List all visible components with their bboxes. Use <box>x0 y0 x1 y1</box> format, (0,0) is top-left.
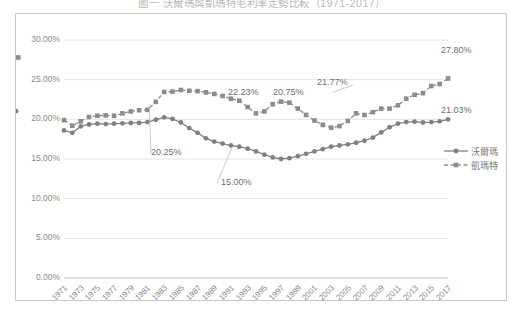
data-point <box>103 122 108 127</box>
data-point <box>154 100 159 105</box>
data-point <box>137 108 142 113</box>
data-point <box>345 142 350 147</box>
data-point <box>404 96 409 101</box>
data-point <box>287 100 292 105</box>
data-point <box>412 92 417 97</box>
data-point <box>354 140 359 145</box>
data-point <box>320 147 325 152</box>
data-point <box>421 120 426 125</box>
data-point <box>112 113 117 118</box>
data-point <box>153 117 158 122</box>
data-point <box>137 121 142 126</box>
y-axis-tick: 5.00% <box>18 232 60 242</box>
data-point <box>370 135 375 140</box>
data-label: 20.25% <box>151 147 182 157</box>
data-point <box>346 119 351 124</box>
data-point <box>304 151 309 156</box>
data-label: 15.00% <box>221 177 252 187</box>
y-axis-tick: 10.00% <box>18 193 60 203</box>
data-point <box>254 111 259 116</box>
data-point <box>78 124 83 129</box>
data-point <box>312 118 317 123</box>
y-axis-tick: 30.00% <box>18 34 60 44</box>
data-point <box>103 113 108 118</box>
data-point <box>387 106 392 111</box>
legend-label-1[interactable]: 沃爾瑪 <box>471 145 498 158</box>
data-point <box>195 130 200 135</box>
data-point <box>437 119 442 124</box>
legend-label-2[interactable]: 凱瑪特 <box>471 159 498 172</box>
series-line-1 <box>64 78 448 127</box>
data-point <box>270 102 275 107</box>
data-point <box>245 105 250 110</box>
data-point <box>396 121 401 126</box>
data-point <box>362 138 367 143</box>
data-label: 27.80% <box>441 45 472 55</box>
data-point <box>204 90 209 95</box>
data-point <box>270 155 275 160</box>
data-point <box>287 156 292 161</box>
data-point <box>379 106 384 111</box>
data-point <box>187 126 192 131</box>
data-point <box>62 128 67 133</box>
data-point <box>220 94 225 99</box>
data-point <box>429 120 434 125</box>
data-point <box>204 136 209 141</box>
data-point <box>245 146 250 151</box>
data-point <box>254 149 259 154</box>
data-point <box>70 123 75 128</box>
chart-title-strip: 圖一 沃爾瑪與凱瑪特毛利率走勢比較（1971-2017） <box>0 0 524 13</box>
data-point <box>237 98 242 103</box>
data-point <box>128 121 133 126</box>
data-point <box>354 111 359 116</box>
data-point <box>95 121 100 126</box>
data-point <box>337 124 342 129</box>
data-point <box>70 130 75 135</box>
data-point <box>371 110 376 115</box>
data-point <box>446 117 451 122</box>
y-axis-tick: 0.00% <box>18 272 60 282</box>
page-title: 圖一 沃爾瑪與凱瑪特毛利率走勢比較（1971-2017） <box>138 0 385 10</box>
data-point <box>262 109 267 114</box>
data-point <box>304 113 309 118</box>
data-point <box>446 76 451 81</box>
data-point <box>404 120 409 125</box>
data-point <box>87 115 92 120</box>
data-point <box>329 125 334 130</box>
data-point <box>421 91 426 96</box>
data-point <box>362 113 367 118</box>
data-point <box>78 119 83 124</box>
data-point <box>179 88 184 93</box>
data-point <box>120 121 125 126</box>
legend-marker-0 <box>454 149 459 154</box>
data-point <box>237 144 242 149</box>
data-point <box>195 89 200 94</box>
data-point <box>170 117 175 122</box>
data-point <box>295 106 300 111</box>
data-point <box>379 130 384 135</box>
data-point <box>279 99 284 104</box>
data-point <box>120 111 125 116</box>
data-point <box>337 143 342 148</box>
data-point <box>229 96 234 101</box>
data-point <box>312 149 317 154</box>
data-point <box>128 109 133 114</box>
chart-screenshot: 圖一 沃爾瑪與凱瑪特毛利率走勢比較（1971-2017） 0.00%5.00%1… <box>0 0 524 316</box>
data-point <box>262 152 267 157</box>
data-point <box>229 143 234 148</box>
data-point <box>162 90 167 95</box>
data-point <box>178 120 183 125</box>
data-label: 22.23% <box>228 87 259 97</box>
data-point <box>220 141 225 146</box>
data-point <box>170 89 175 94</box>
legend-marker-1 <box>454 163 459 168</box>
data-point <box>16 55 21 60</box>
plot-area: 0.00%5.00%10.00%15.00%20.00%25.00%30.00%… <box>16 14 508 302</box>
data-point <box>279 157 284 162</box>
y-axis-tick: 20.00% <box>18 113 60 123</box>
data-point <box>145 120 150 125</box>
data-point <box>62 118 67 123</box>
y-axis-tick: 15.00% <box>18 153 60 163</box>
data-point <box>95 113 100 118</box>
data-point <box>329 144 334 149</box>
